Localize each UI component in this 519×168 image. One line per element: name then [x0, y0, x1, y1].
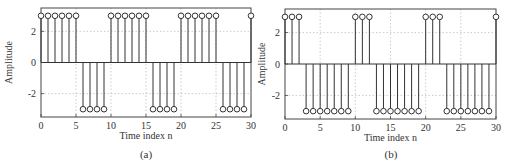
stem-marker	[94, 106, 100, 112]
x-tick-label: 30	[246, 120, 256, 131]
stem-marker	[317, 108, 323, 114]
stem-marker	[227, 106, 233, 112]
stem-marker	[122, 13, 128, 19]
stem-marker	[185, 13, 191, 19]
stem-marker	[331, 108, 337, 114]
x-tick-label: 0	[39, 120, 44, 131]
y-tick-label: 0	[31, 57, 36, 68]
stem-marker	[395, 108, 401, 114]
figure: 051015202530-202AmplitudeTime index n(a)…	[0, 0, 519, 168]
x-tick-label: 25	[456, 122, 466, 133]
stem-marker	[192, 13, 198, 19]
stem-marker	[360, 14, 366, 20]
stem-marker	[45, 13, 51, 19]
stem-marker	[80, 106, 86, 112]
stem-marker	[143, 13, 149, 19]
stem-marker	[157, 106, 163, 112]
x-tick-label: 0	[283, 122, 288, 133]
stem-marker	[59, 13, 65, 19]
stem-marker	[206, 13, 212, 19]
stem-marker	[451, 108, 457, 114]
stem-marker	[234, 106, 240, 112]
stem-marker	[136, 13, 142, 19]
stem-marker	[164, 106, 170, 112]
stem-marker	[338, 108, 344, 114]
stem-marker	[346, 108, 352, 114]
stem-marker	[409, 108, 415, 114]
y-tick-label: -2	[272, 90, 280, 101]
stem-marker	[115, 13, 121, 19]
y-axis-label: Amplitude	[256, 42, 267, 85]
stem-marker	[303, 108, 309, 114]
stem-marker	[493, 14, 499, 20]
x-tick-label: 25	[211, 120, 221, 131]
y-tick-label: -2	[28, 88, 36, 99]
x-tick-label: 10	[106, 120, 116, 131]
stem-marker	[296, 14, 302, 20]
stem-marker	[444, 108, 450, 114]
stem-marker	[430, 14, 436, 20]
stem-marker	[241, 106, 247, 112]
stem-marker	[73, 13, 79, 19]
chart-panel-b: 051015202530-202AmplitudeTime index n(b)	[256, 9, 501, 161]
stem-marker	[388, 108, 394, 114]
stem-marker	[479, 108, 485, 114]
stem-marker	[129, 13, 135, 19]
stem-marker	[402, 108, 408, 114]
y-tick-label: 0	[275, 59, 280, 70]
stem-marker	[52, 13, 58, 19]
chart-panel-a: 051015202530-202AmplitudeTime index n(a)	[3, 8, 256, 161]
panel-caption: (a)	[140, 148, 153, 161]
stem-marker	[353, 14, 359, 20]
stem-marker	[472, 108, 478, 114]
stem-marker	[108, 13, 114, 19]
x-tick-label: 30	[491, 122, 501, 133]
y-tick-label: 2	[31, 26, 36, 37]
y-tick-label: 2	[275, 27, 280, 38]
x-tick-label: 20	[176, 120, 186, 131]
stem-marker	[171, 106, 177, 112]
stem-marker	[87, 106, 93, 112]
stem-marker	[367, 14, 373, 20]
stem-marker	[289, 14, 295, 20]
panel-caption: (b)	[385, 148, 398, 161]
stem-marker	[324, 108, 330, 114]
x-tick-label: 5	[74, 120, 79, 131]
stem-marker	[178, 13, 184, 19]
stem-marker	[150, 106, 156, 112]
stem-marker	[374, 108, 380, 114]
stem-marker	[310, 108, 316, 114]
x-tick-label: 20	[421, 122, 431, 133]
stem-marker	[248, 13, 254, 19]
x-axis-label: Time index n	[364, 132, 417, 143]
stem-marker	[220, 106, 226, 112]
x-tick-label: 5	[318, 122, 323, 133]
x-axis-label: Time index n	[120, 130, 173, 141]
stem-marker	[199, 13, 205, 19]
stem-marker	[66, 13, 72, 19]
x-tick-label: 10	[350, 122, 360, 133]
stem-marker	[101, 106, 107, 112]
stem-marker	[486, 108, 492, 114]
stem-marker	[465, 108, 471, 114]
stem-marker	[437, 14, 443, 20]
stem-marker	[458, 108, 464, 114]
stem-marker	[38, 13, 44, 19]
y-axis-label: Amplitude	[3, 41, 14, 84]
stem-marker	[423, 14, 429, 20]
stem-marker	[416, 108, 422, 114]
stem-marker	[381, 108, 387, 114]
stem-marker	[213, 13, 219, 19]
stem-marker	[282, 14, 288, 20]
